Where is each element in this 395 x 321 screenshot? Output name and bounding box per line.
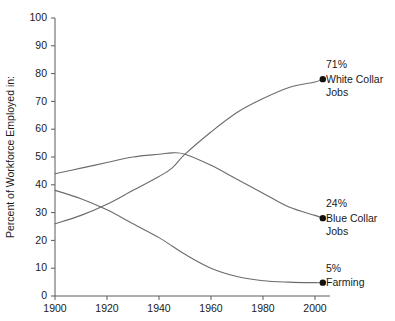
y-axis: 0102030405060708090100	[29, 11, 55, 301]
data-curves	[55, 79, 323, 283]
y-axis-title: Percent of Workforce Employed in:	[4, 76, 16, 238]
y-tick-label: 20	[35, 234, 47, 246]
x-tick-label: 1980	[251, 302, 275, 314]
annotation-value: 71%	[326, 58, 347, 70]
x-tick-label: 1920	[95, 302, 119, 314]
y-tick-label: 50	[35, 150, 47, 162]
series-line	[55, 153, 323, 218]
series-annotations: 71%White CollarJobs24%Blue CollarJobs5%F…	[326, 58, 384, 288]
y-tick-label: 80	[35, 67, 47, 79]
series-line	[55, 79, 323, 224]
y-tick-label: 100	[29, 11, 47, 23]
y-tick-label: 40	[35, 178, 47, 190]
annotation-value: 5%	[326, 262, 341, 274]
y-tick-label: 90	[35, 39, 47, 51]
y-tick-label: 10	[35, 261, 47, 273]
annotation-label-line1: White Collar	[326, 73, 384, 85]
annotation-label-line1: Farming	[326, 276, 365, 288]
x-tick-label: 2000	[303, 302, 327, 314]
series-endpoint-dots	[320, 76, 326, 286]
y-tick-label: 0	[41, 289, 47, 301]
chart-canvas: 0102030405060708090100 19001920194019601…	[0, 0, 395, 321]
x-axis: 190019201940196019802000	[43, 296, 330, 314]
y-tick-label: 70	[35, 95, 47, 107]
y-tick-label: 60	[35, 122, 47, 134]
annotation-label-line2: Jobs	[326, 225, 348, 237]
y-tick-label: 30	[35, 206, 47, 218]
annotation-label-line1: Blue Collar	[326, 212, 378, 224]
annotation-label-line2: Jobs	[326, 86, 348, 98]
x-tick-label: 1900	[43, 302, 67, 314]
line-chart: 0102030405060708090100 19001920194019601…	[0, 0, 395, 321]
x-tick-label: 1960	[199, 302, 223, 314]
annotation-value: 24%	[326, 197, 347, 209]
x-tick-label: 1940	[147, 302, 171, 314]
